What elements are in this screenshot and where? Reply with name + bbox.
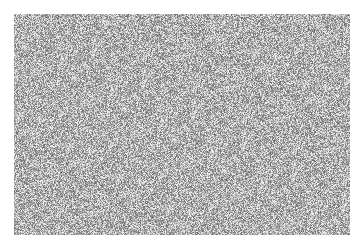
noise-texture-image xyxy=(14,14,350,235)
